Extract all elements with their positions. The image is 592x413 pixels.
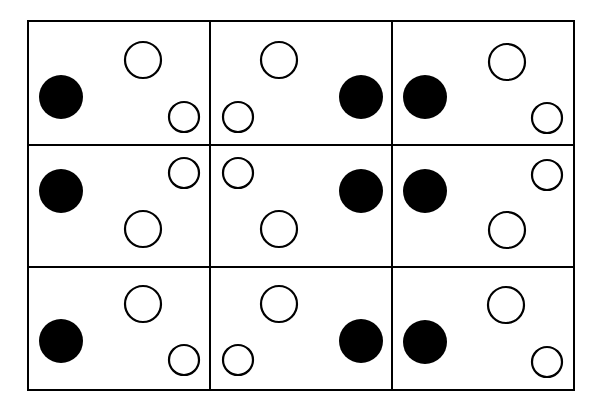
open-circle	[488, 287, 524, 323]
open-circle	[125, 42, 161, 78]
open-circle	[223, 102, 253, 132]
open-circle	[532, 103, 562, 133]
open-circle	[169, 345, 199, 375]
grid-cell-r1-c2	[223, 42, 383, 132]
grid-cell-r2-c2	[223, 158, 383, 247]
grid-cell-r3-c2	[223, 286, 383, 375]
grid-cells	[39, 42, 562, 377]
open-circle	[223, 158, 253, 188]
filled-circle	[39, 75, 83, 119]
filled-circle	[403, 169, 447, 213]
filled-circle	[39, 169, 83, 213]
filled-circle	[39, 319, 83, 363]
filled-circle	[339, 75, 383, 119]
filled-circle	[339, 169, 383, 213]
grid-cell-r3-c3	[403, 287, 562, 377]
open-circle	[261, 286, 297, 322]
filled-circle	[403, 75, 447, 119]
open-circle	[261, 42, 297, 78]
grid-cell-r3-c1	[39, 286, 199, 375]
open-circle	[223, 345, 253, 375]
grid-cell-r2-c1	[39, 158, 199, 247]
open-circle	[169, 102, 199, 132]
circle-grid-diagram	[0, 0, 592, 413]
grid-cell-r1-c1	[39, 42, 199, 132]
open-circle	[489, 212, 525, 248]
grid-border	[28, 21, 574, 390]
open-circle	[169, 158, 199, 188]
grid-cell-r2-c3	[403, 160, 562, 248]
filled-circle	[403, 320, 447, 364]
open-circle	[532, 347, 562, 377]
open-circle	[261, 211, 297, 247]
open-circle	[489, 44, 525, 80]
open-circle	[125, 286, 161, 322]
open-circle	[532, 160, 562, 190]
open-circle	[125, 211, 161, 247]
filled-circle	[339, 319, 383, 363]
grid-cell-r1-c3	[403, 44, 562, 133]
grid-lines	[28, 21, 574, 390]
